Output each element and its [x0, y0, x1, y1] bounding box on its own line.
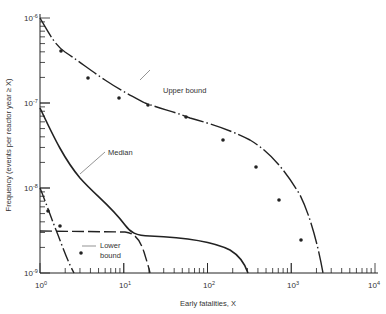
median-pointer — [80, 152, 105, 174]
svg-text:10-8: 10-8 — [24, 183, 38, 193]
x-axis-label: Early fatalities, X — [180, 299, 236, 308]
svg-text:102: 102 — [203, 280, 215, 290]
svg-text:103: 103 — [287, 280, 299, 290]
chart: 100 101 102 103 104 10-6 10-7 10-8 10-9 … — [0, 0, 386, 314]
svg-text:104: 104 — [368, 280, 380, 290]
svg-text:10-7: 10-7 — [24, 98, 38, 108]
svg-text:100: 100 — [35, 280, 47, 290]
svg-text:10-6: 10-6 — [24, 13, 38, 23]
svg-text:10-9: 10-9 — [24, 268, 38, 278]
dashed-line — [40, 231, 150, 273]
svg-text:101: 101 — [119, 280, 131, 290]
median-line — [40, 108, 248, 273]
x-ticks — [40, 263, 375, 273]
y-ticks — [40, 18, 50, 273]
upper-bound-markers — [59, 49, 303, 242]
upper-bound-label: Upper bound — [163, 86, 206, 95]
upper-bound-line — [40, 18, 323, 273]
y-axis-label: Frequency (events per reactor year ≥ X) — [4, 78, 13, 211]
x-tick-labels: 100 101 102 103 104 — [35, 280, 380, 290]
lower-bound-label-1: Lower — [100, 241, 121, 250]
lower-bound-label-2: bound — [100, 251, 121, 260]
median-label: Median — [108, 148, 133, 157]
upper-bound-pointer — [140, 70, 150, 80]
y-tick-labels: 10-6 10-7 10-8 10-9 — [24, 13, 38, 278]
